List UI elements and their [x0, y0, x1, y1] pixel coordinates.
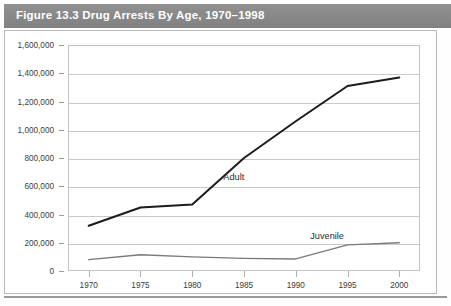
x-axis-tick-mark	[399, 271, 400, 277]
y-axis-tick-label: 400,000	[24, 210, 54, 219]
x-axis-tick-label: 1995	[338, 281, 356, 290]
y-axis: 1,600,0001,400,0001,200,0001,000,000800,…	[0, 45, 64, 271]
series-label-juvenile: Juvenile	[310, 231, 344, 241]
x-axis-tick-label: 1970	[80, 281, 98, 290]
y-axis-tick-mark	[59, 243, 64, 244]
x-axis-tick-mark	[296, 271, 297, 277]
x-axis-tick-label: 2000	[390, 281, 408, 290]
x-axis-tick-mark	[244, 271, 245, 277]
y-axis-tick-mark	[59, 215, 64, 216]
y-axis-tick-label: 1,000,000	[18, 125, 54, 134]
x-axis-tick-mark	[348, 271, 349, 277]
y-axis-tick-mark	[59, 102, 64, 103]
data-line-juvenile	[89, 243, 400, 260]
y-axis-tick-mark	[59, 158, 64, 159]
y-axis-tick-mark	[59, 45, 64, 46]
y-axis-tick-label: 600,000	[24, 182, 54, 191]
series-label-adult: Adult	[223, 172, 244, 182]
chart-lines	[68, 45, 420, 271]
chart-plot-wrapper: 1,600,0001,400,0001,200,0001,000,000800,…	[0, 0, 451, 306]
y-axis-tick-mark	[59, 73, 64, 74]
y-axis-tick-mark	[59, 130, 64, 131]
x-axis-tick-label: 1985	[235, 281, 253, 290]
y-axis-tick-label: 1,600,000	[18, 41, 54, 50]
x-axis-tick-label: 1980	[183, 281, 201, 290]
y-axis-tick-mark	[59, 271, 64, 272]
y-axis-tick-label: 800,000	[24, 154, 54, 163]
x-axis-tick-mark	[192, 271, 193, 277]
x-axis-tick-mark	[89, 271, 90, 277]
x-axis-tick-mark	[140, 271, 141, 277]
y-axis-tick-label: 1,400,000	[18, 69, 54, 78]
y-axis-tick-label: 200,000	[24, 238, 54, 247]
x-axis-tick-label: 1990	[287, 281, 305, 290]
figure-container: Figure 13.3 Drug Arrests By Age, 1970–19…	[0, 0, 451, 306]
y-axis-tick-label: 0	[49, 267, 54, 276]
x-axis-tick-label: 1975	[131, 281, 149, 290]
y-axis-tick-label: 1,200,000	[18, 97, 54, 106]
data-line-adult	[89, 77, 400, 225]
y-axis-tick-mark	[59, 186, 64, 187]
